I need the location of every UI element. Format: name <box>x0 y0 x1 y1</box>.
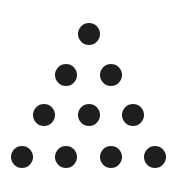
dot-row-4-10 <box>144 146 166 168</box>
dot-row-2-2 <box>55 64 77 86</box>
dot-row-4-8 <box>55 146 77 168</box>
dot-triangle-svg <box>0 0 183 170</box>
dot-row-2-3 <box>100 64 122 86</box>
dot-row-4-7 <box>11 146 33 168</box>
dot-row-3-6 <box>122 104 144 126</box>
dot-row-3-5 <box>78 104 100 126</box>
dot-row-4-9 <box>100 146 122 168</box>
dot-row-1-1 <box>78 23 100 45</box>
dot-row-3-4 <box>33 104 55 126</box>
dot-triangle-diagram <box>0 0 183 170</box>
